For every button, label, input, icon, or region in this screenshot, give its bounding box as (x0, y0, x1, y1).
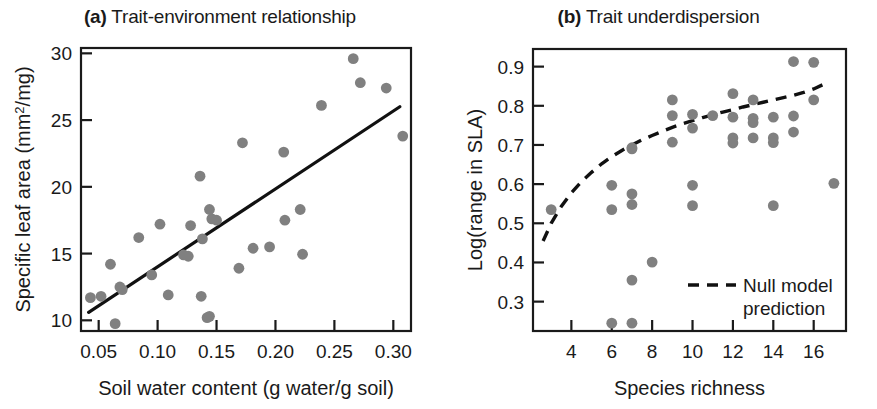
panel-a: (a) Trait-environment relationship 10152… (0, 0, 440, 409)
legend-label-line2: prediction (743, 298, 825, 319)
panel-b-data-point (728, 88, 739, 99)
panel-b-data-point (667, 137, 678, 148)
panel-b-data-point (748, 95, 759, 106)
panel-b-data-point (606, 180, 617, 191)
panel-b-data-point (667, 95, 678, 106)
panel-a-xtick-label: 0.20 (257, 341, 294, 362)
panel-b-data-point (687, 200, 698, 211)
panel-b-data-point (768, 200, 779, 211)
panel-a-xtick-label: 0.25 (316, 341, 353, 362)
panel-a-ytick-label: 25 (51, 110, 72, 131)
panel-a-yaxis-title: Specific leaf area (mm2/mg) (12, 66, 34, 312)
panel-a-data-point (297, 249, 308, 260)
panel-a-xtick-label: 0.15 (198, 341, 235, 362)
panel-b-data-point (828, 178, 839, 189)
panel-b-data-point (627, 199, 638, 210)
panel-a-data-point (163, 290, 174, 301)
panel-b-xtick-label: 4 (566, 341, 577, 362)
legend-label-line1: Null model (743, 275, 833, 296)
panel-b-data-point (728, 138, 739, 149)
panel-b-ytick-label: 0.8 (498, 96, 524, 117)
panel-a-data-point (316, 100, 327, 111)
panel-a-data-point (185, 220, 196, 231)
panel-b-data-point (788, 127, 799, 138)
panel-a-data-point (110, 318, 121, 329)
panel-b-xtick-label: 10 (682, 341, 703, 362)
panel-b-ytick-label: 0.7 (498, 135, 524, 156)
panel-b-xaxis-title: Species richness (614, 377, 765, 399)
panel-b-xtick-label: 14 (763, 341, 785, 362)
panel-b-data-point (748, 133, 759, 144)
panel-a-data-point (105, 259, 116, 270)
panel-b-data-point (627, 275, 638, 286)
panel-a-regression-line (89, 107, 400, 313)
panel-b-ytick-label: 0.6 (498, 174, 524, 195)
figure-container: (a) Trait-environment relationship 10152… (0, 0, 877, 409)
panel-a-data-point (381, 83, 392, 94)
panel-a-data-point (197, 233, 208, 244)
panel-a-data-point (96, 291, 107, 302)
panel-b-data-point (667, 110, 678, 121)
panel-a-data-point (85, 292, 96, 303)
panel-a-data-point (397, 131, 408, 142)
panel-a-xtick-label: 0.30 (375, 341, 412, 362)
panel-a-data-point (264, 242, 275, 253)
panel-a-data-point (196, 291, 207, 302)
panel-a-xaxis-title: Soil water content (g water/g soil) (98, 377, 394, 399)
panel-a-xtick-label: 0.10 (139, 341, 176, 362)
panel-b-data-point (768, 112, 779, 123)
panel-b-data-point (627, 143, 638, 154)
panel-b-data-point (606, 204, 617, 215)
panel-b-data-point (728, 112, 739, 123)
panel-a-data-point (204, 204, 215, 215)
panel-b-data-point (627, 189, 638, 200)
panel-b-data-point (546, 204, 557, 215)
panel-b-ytick-label: 0.3 (498, 292, 524, 313)
panel-b-yaxis-title: Log(range in SLA) (464, 109, 486, 271)
panel-b-data-point (748, 117, 759, 128)
panel-b-data-point (647, 257, 658, 268)
panel-a-data-point (211, 215, 222, 226)
panel-a-data-point (279, 215, 290, 226)
panel-a-data-point (117, 284, 128, 295)
panel-b-ytick-label: 0.9 (498, 57, 524, 78)
panel-a-xtick-label: 0.05 (80, 341, 117, 362)
panel-b-data-point (768, 137, 779, 148)
panel-b-xtick-label: 12 (722, 341, 743, 362)
panel-b-data-point (808, 95, 819, 106)
panel-b-data-point (707, 110, 718, 121)
panel-a-data-point (248, 243, 259, 254)
panel-a-data-point (278, 147, 289, 158)
panel-a-data-point (237, 137, 248, 148)
panel-b-xtick-label: 6 (606, 341, 617, 362)
panel-a-ytick-label: 30 (51, 43, 72, 64)
panel-b-data-point (687, 109, 698, 120)
panel-b-data-point (808, 57, 819, 68)
panel-a-ytick-label: 15 (51, 244, 72, 265)
panel-a-data-point (183, 251, 194, 262)
panel-b-data-point (788, 56, 799, 67)
panel-b-xtick-label: 16 (803, 341, 824, 362)
panel-a-data-point (146, 270, 157, 281)
panel-a-axes-frame (81, 48, 411, 331)
panel-b-null-model-curve (543, 84, 824, 241)
panel-b-xtick-label: 8 (647, 341, 658, 362)
panel-b-data-point (627, 318, 638, 329)
panel-b: (b) Trait underdispersion 0.30.40.50.60.… (440, 0, 877, 409)
panel-a-data-point (195, 171, 206, 182)
panel-b-data-point (788, 111, 799, 122)
panel-a-data-point (355, 77, 366, 88)
panel-b-data-point (687, 123, 698, 134)
panel-a-data-point (204, 311, 215, 322)
panel-a-ytick-label: 10 (51, 310, 72, 331)
panel-b-data-point (687, 180, 698, 191)
panel-a-ytick-label: 20 (51, 177, 72, 198)
panel-a-data-point (155, 219, 166, 230)
panel-a-data-point (234, 263, 245, 274)
panel-b-plot: 0.30.40.50.60.70.80.946810121416Null mod… (440, 0, 877, 409)
panel-b-data-point (606, 318, 617, 329)
panel-a-data-point (133, 232, 144, 243)
panel-a-data-point (348, 53, 359, 64)
panel-a-data-point (295, 204, 306, 215)
panel-b-ytick-label: 0.4 (498, 252, 525, 273)
